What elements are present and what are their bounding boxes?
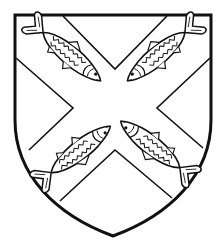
heraldic-shield-figure: Argent, a saltire between four fish (her… <box>0 0 224 247</box>
shield-outline <box>15 15 211 236</box>
shield-svg <box>0 0 224 247</box>
